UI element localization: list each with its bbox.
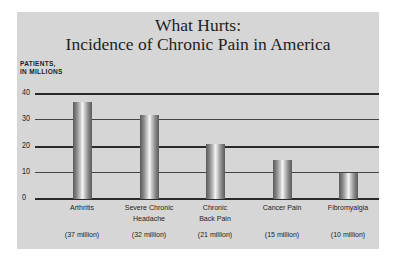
category-label: ChronicBack Pain: [180, 203, 250, 224]
category-label-line: Severe Chronic: [114, 203, 184, 214]
bar-0: [73, 102, 92, 199]
y-tick-label: 30: [22, 113, 30, 123]
y-axis-label-line2: IN MILLIONS: [20, 68, 63, 76]
y-tick-label: 10: [22, 166, 30, 176]
y-axis-label: PATIENTS, IN MILLIONS: [20, 60, 63, 76]
category-label-line: Headache: [114, 214, 184, 225]
category-label: Arthritis: [47, 203, 117, 214]
chart-subtitle: Incidence of Chronic Pain in America: [17, 34, 379, 54]
bar-2: [206, 144, 225, 199]
bar-1: [140, 115, 159, 199]
category-label-line: Arthritis: [47, 203, 117, 214]
value-label: (32 million): [114, 230, 184, 239]
value-label: (10 million): [313, 230, 383, 239]
y-axis-label-line1: PATIENTS,: [20, 60, 63, 68]
category-label-line: Fibromyalgia: [313, 203, 383, 214]
bar-3: [273, 160, 292, 199]
category-label-line: Chronic: [180, 203, 250, 214]
y-tick-label: 0: [22, 192, 26, 202]
category-label: Cancer Pain: [247, 203, 317, 214]
bar-4: [339, 173, 358, 199]
chart-title: What Hurts:: [17, 15, 379, 35]
category-label: Fibromyalgia: [313, 203, 383, 214]
value-label: (37 million): [47, 230, 117, 239]
y-tick-label: 20: [22, 140, 30, 150]
value-label: (21 million): [180, 230, 250, 239]
chart-panel: What Hurts: Incidence of Chronic Pain in…: [17, 12, 379, 249]
category-label-line: Cancer Pain: [247, 203, 317, 214]
category-label-line: Back Pain: [180, 214, 250, 225]
category-label: Severe ChronicHeadache: [114, 203, 184, 224]
y-tick-label: 40: [22, 87, 30, 97]
value-label: (15 million): [247, 230, 317, 239]
gridline: [35, 93, 379, 95]
